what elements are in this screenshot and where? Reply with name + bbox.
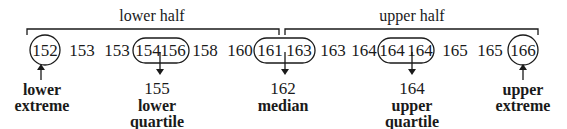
upper-extreme-label: upper extreme: [496, 81, 551, 114]
upper-quartile-value: 164: [399, 79, 425, 98]
median-value: 162: [270, 79, 296, 98]
upper-quartile-line2: quartile: [385, 113, 439, 129]
lower-quartile-value: 155: [144, 79, 170, 98]
value-1: 152: [32, 41, 58, 60]
median-label: 162 median: [258, 79, 309, 114]
value-10: 163: [320, 41, 346, 60]
value-7: 160: [227, 41, 253, 60]
value-6: 158: [192, 41, 218, 60]
value-2: 153: [69, 41, 95, 60]
value-16: 166: [510, 41, 536, 60]
lower-extreme-line1: lower: [23, 81, 61, 98]
value-9: 163: [286, 41, 312, 60]
value-3: 153: [104, 41, 130, 60]
value-13: 164: [407, 41, 433, 60]
lower-quartile-line1: lower: [138, 97, 176, 114]
upper-extreme-arrow: [519, 64, 527, 80]
value-8: 161: [257, 41, 283, 60]
lower-quartile-line2: quartile: [130, 113, 184, 129]
value-4: 154: [135, 41, 161, 60]
upper-extreme-line2: extreme: [496, 97, 551, 114]
upper-half-bracket: upper half: [285, 7, 538, 35]
lower-half-label: lower half: [119, 7, 185, 24]
value-5: 156: [160, 41, 186, 60]
lower-half-bracket: lower half: [27, 7, 279, 35]
quartile-diagram: lower half upper half 152 153 153 154 15…: [0, 0, 567, 129]
value-15: 165: [477, 41, 503, 60]
lower-extreme-line2: extreme: [15, 97, 70, 114]
lower-extreme-label: lower extreme: [15, 81, 70, 114]
lower-quartile-label: 155 lower quartile: [130, 79, 184, 129]
value-12: 164: [379, 41, 405, 60]
upper-quartile-label: 164 upper quartile: [385, 79, 439, 129]
lower-extreme-arrow: [37, 64, 45, 80]
median-line1: median: [258, 97, 309, 114]
upper-half-label: upper half: [379, 7, 445, 25]
value-14: 165: [442, 41, 468, 60]
data-values: 152 153 153 154 156 158 160 161 163 163 …: [32, 41, 536, 60]
value-11: 164: [351, 41, 377, 60]
